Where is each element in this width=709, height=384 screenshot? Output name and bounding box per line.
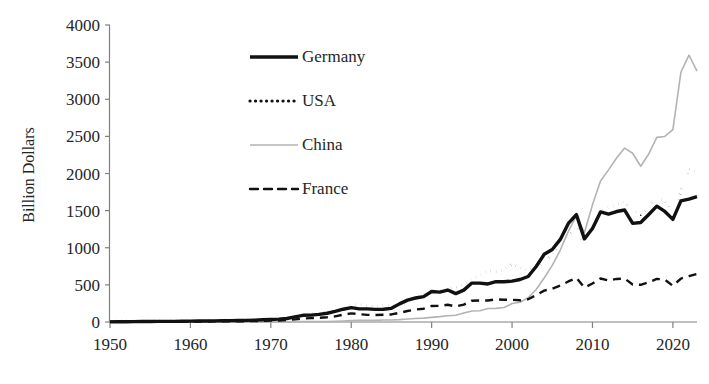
y-tick-label: 3500 (66, 53, 100, 72)
legend-label-china: China (302, 135, 343, 154)
y-tick-label: 1000 (66, 239, 100, 258)
line-chart-canvas: Billion Dollars 050010001500200025003000… (0, 0, 709, 384)
x-tick-label: 2000 (495, 335, 529, 354)
x-tick-label: 2020 (656, 335, 690, 354)
y-axis-ticks: 05001000150020002500300035004000 (66, 16, 110, 332)
y-tick-label: 500 (75, 276, 101, 295)
y-tick-label: 4000 (66, 16, 100, 35)
series-line-china (110, 55, 697, 322)
chart-figure: Billion Dollars 050010001500200025003000… (0, 0, 709, 384)
x-tick-label: 1990 (415, 335, 449, 354)
series-line-germany (110, 197, 697, 322)
chart-legend: GermanyUSAChinaFrance (250, 47, 366, 198)
x-axis-ticks: 19501960197019801990200020102020 (93, 322, 690, 354)
legend-label-usa: USA (302, 91, 337, 110)
y-tick-label: 3000 (66, 90, 100, 109)
y-tick-label: 2500 (66, 127, 100, 146)
x-tick-label: 1960 (173, 335, 207, 354)
series-line-france (110, 274, 697, 322)
legend-label-germany: Germany (302, 47, 366, 66)
data-series-group (110, 55, 697, 322)
y-axis-title-label: Billion Dollars (20, 127, 37, 223)
legend-label-france: France (302, 179, 348, 198)
y-tick-label: 1500 (66, 202, 100, 221)
y-tick-label: 2000 (66, 165, 100, 184)
x-tick-label: 1980 (334, 335, 368, 354)
series-line-usa (110, 169, 697, 322)
x-tick-label: 1950 (93, 335, 127, 354)
x-tick-label: 2010 (575, 335, 609, 354)
y-tick-label: 0 (92, 313, 101, 332)
x-tick-label: 1970 (254, 335, 288, 354)
y-axis-title: Billion Dollars (20, 127, 37, 223)
